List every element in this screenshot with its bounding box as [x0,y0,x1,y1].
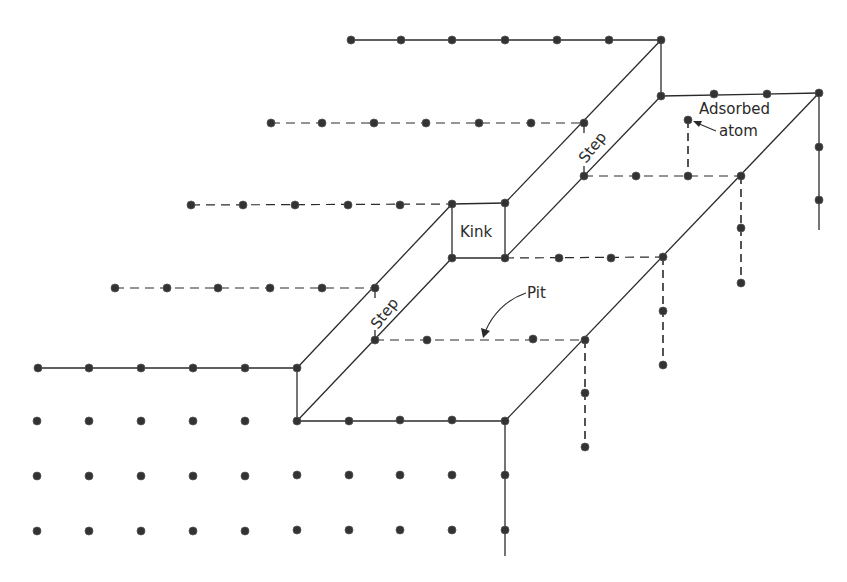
kink-label: Kink [460,223,493,241]
adsorbed-atom [684,116,692,124]
step-label-lower: Step [367,294,402,332]
pit-arrow-icon [486,293,526,330]
pit-arrowhead-icon [481,328,490,338]
adsorbed-label-line1: Adsorbed [699,100,770,118]
adsorbed-label-line2: atom [719,122,758,140]
step-label-upper: Step [575,128,610,166]
crystal-surface-diagram: Kink Step Step Pit Adsorbed atom [0,0,847,582]
pit-label: Pit [527,284,546,302]
